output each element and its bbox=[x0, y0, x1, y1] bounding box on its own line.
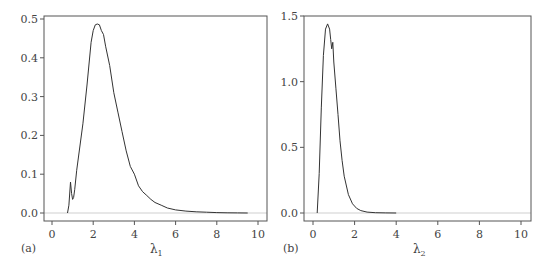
x-tick-label: 4 bbox=[131, 228, 138, 241]
x-tick-label: 6 bbox=[434, 228, 441, 241]
panel-a-chart: 0.00.10.20.30.40.5 0246810 (a) λ1 bbox=[21, 13, 268, 258]
y-tick-label: 0.0 bbox=[21, 207, 39, 220]
panel-a-y-axis: 0.00.10.20.30.40.5 bbox=[21, 13, 45, 220]
panel-a-label: (a) bbox=[21, 242, 36, 255]
panel-b-chart: 0.00.51.01.5 0246810 (b) λ2 bbox=[281, 10, 532, 258]
x-tick-label: 0 bbox=[49, 228, 56, 241]
y-tick-label: 0.1 bbox=[21, 168, 39, 181]
y-tick-label: 0.3 bbox=[21, 91, 39, 104]
x-tick-label: 10 bbox=[514, 228, 528, 241]
panel-b-label: (b) bbox=[283, 242, 299, 255]
panel-a-x-axis-label: λ1 bbox=[150, 242, 163, 258]
x-tick-label: 4 bbox=[393, 228, 400, 241]
x-tick-label: 2 bbox=[351, 228, 358, 241]
figure: 0.00.10.20.30.40.5 0246810 (a) λ1 0.00.5… bbox=[0, 0, 553, 271]
y-tick-label: 0.4 bbox=[21, 52, 39, 65]
y-tick-label: 1.0 bbox=[281, 76, 299, 89]
y-tick-label: 1.5 bbox=[281, 10, 299, 23]
panel-a-x-axis: 0246810 bbox=[49, 221, 266, 241]
panel-b-y-axis: 0.00.51.01.5 bbox=[281, 10, 305, 220]
x-tick-label: 8 bbox=[476, 228, 483, 241]
y-tick-label: 0.5 bbox=[281, 141, 299, 154]
y-tick-label: 0.5 bbox=[21, 13, 39, 26]
y-tick-label: 0.0 bbox=[281, 207, 299, 220]
panel-b-x-axis: 0246810 bbox=[310, 221, 529, 241]
panel-a-density-curve bbox=[68, 24, 248, 213]
x-tick-label: 8 bbox=[213, 228, 220, 241]
panel-a-plot-frame bbox=[44, 16, 267, 221]
y-tick-label: 0.2 bbox=[21, 129, 39, 142]
panel-b-density-curve bbox=[317, 24, 396, 213]
x-tick-label: 10 bbox=[251, 228, 265, 241]
x-tick-label: 6 bbox=[172, 228, 179, 241]
x-tick-label: 2 bbox=[90, 228, 97, 241]
x-tick-label: 0 bbox=[310, 228, 317, 241]
panel-b-x-axis-label: λ2 bbox=[413, 242, 426, 258]
